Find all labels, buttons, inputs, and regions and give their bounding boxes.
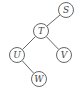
node-t: T [34,24,49,39]
node-label: S [63,5,69,15]
edge-t-v [46,36,59,49]
edge-s-t [47,15,61,26]
node-w: W [32,72,47,87]
node-label: T [38,26,45,36]
edge-t-u [22,36,35,49]
node-label: U [13,50,21,60]
node-u: U [10,48,25,63]
node-label: W [34,74,44,84]
node-v: V [57,48,72,63]
nodes: STUVW [10,3,74,87]
tree-diagram: STUVW [0,0,83,98]
edge-u-w [22,61,34,74]
node-s: S [59,3,74,18]
